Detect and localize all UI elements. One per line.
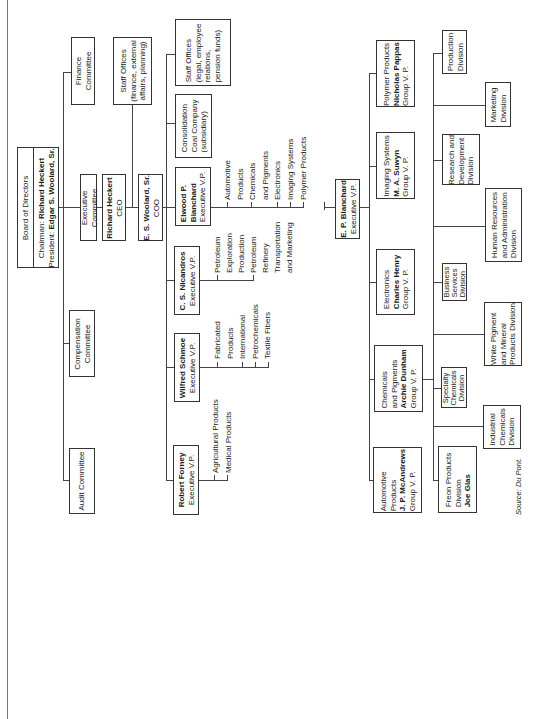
evp-elwood-blanchard-box: Elwood P.BlanchardExecutive V.P. (175, 167, 211, 226)
connector (166, 123, 175, 124)
evp-forney-box: Robert ForneyExecutive V.P. (173, 445, 199, 515)
connector (253, 275, 254, 280)
connector (166, 480, 173, 481)
group-vp-imaging-box: Imaging SystemsM. A. SuwynGroup V. P. (376, 132, 415, 199)
executive-committee-box: ExecutiveCommittee (80, 174, 97, 241)
staff-offices-corporate-box: Staff Offices(finance, externalaffairs, … (113, 37, 152, 105)
connector (200, 367, 269, 368)
board-chairman-row: Chairman: Richard Heckert (36, 148, 46, 267)
staff-offices-connector (132, 105, 133, 207)
connector (63, 72, 71, 73)
ceo-to-coo (126, 207, 138, 208)
connector (166, 207, 175, 208)
board-president: Edgar S. Woolard, Sr. (46, 148, 55, 229)
coo-name: E. S. Woolard, Sr. (141, 174, 150, 240)
board-title: Board of Directors (21, 175, 31, 239)
connector (200, 280, 254, 281)
board-chairman: Richard Heckert (36, 157, 45, 218)
evp-nicandros-box: C. S. NicandrosExecutive V.P. (174, 246, 200, 315)
finance-committee-box: FinanceCommittee (71, 37, 95, 105)
connector (166, 280, 174, 281)
committee-spine (63, 72, 64, 481)
group-vp-automotive-box: AutomotiveProductsJ. P. McAndrewsGroup V… (373, 447, 422, 513)
division-freon-box: Freon ProductsDivisionJoe Glas (438, 446, 477, 513)
compensation-committee-box: CompensationCommittee (69, 310, 95, 377)
connector (433, 53, 442, 54)
board-of-directors-box: Board of Directors Chairman: Richard Hec… (17, 147, 59, 268)
connector (290, 202, 291, 207)
connector (211, 207, 304, 208)
division-business-services-box: BusinessServicesDivision (442, 263, 467, 301)
connector (277, 202, 278, 207)
connector (324, 207, 335, 208)
board-president-row: President: Edgar S. Woolard, Sr. (46, 148, 56, 267)
coo-box: E. S. Woolard, Sr.COO (138, 174, 163, 241)
evp-schmoe-box: Wilfred SchmoeExecutive V.P. (174, 333, 200, 402)
division-hr-admin-box: Human Resourcesand AdministrationDivisio… (485, 188, 522, 262)
division-marketing-box: MarketingDivision (485, 82, 511, 127)
ceo-box: Richard HeckertCEO (102, 174, 126, 241)
connector (369, 282, 376, 283)
audit-committee-box: Audit Committee (69, 448, 95, 514)
evp-spine (166, 54, 167, 481)
connector (433, 160, 442, 161)
group-vp-spine (369, 73, 370, 481)
group-vp-electronics-box: ElectronicsCharles HenryGroup V. P. (376, 249, 415, 315)
connector (214, 475, 215, 480)
consolidation-coal-box: ConsolidationCoal Company(subsidiary) (175, 94, 212, 158)
connector (369, 166, 376, 167)
page-edge-rule (7, 0, 8, 719)
division-white-pigment-box: White Pigmentand MineralProducts Divisio… (484, 302, 522, 366)
connector (433, 226, 485, 227)
continuation-bracket (324, 202, 325, 210)
connector (433, 105, 485, 106)
connector (433, 388, 441, 389)
connector (433, 426, 483, 427)
connector (217, 362, 218, 367)
connector (255, 362, 256, 367)
group-vp-polymer-box: Polymer ProductsNicholas PappasGroup V. … (376, 40, 415, 107)
connector (433, 282, 442, 283)
staff-offices-legal-box: Staff Offices(legal, employeerelations,p… (175, 19, 231, 86)
group-vp-chemicals-box: Chemicalsand PigmentsArchie DunhamGroup … (374, 345, 423, 412)
connector (227, 202, 228, 207)
connector (242, 362, 243, 367)
connector (166, 367, 174, 368)
connector (199, 480, 228, 481)
ep-blanchard-box: E. P. BlanchardExecutive V.P. (335, 179, 360, 239)
connector (303, 202, 304, 207)
connector (217, 275, 218, 280)
connector (63, 207, 80, 208)
connector (369, 73, 376, 74)
connector (251, 202, 252, 207)
ceo-name: Richard Heckert (105, 177, 114, 238)
connector (433, 334, 484, 335)
division-specialty-chemicals-box: SpecialtyChemicalsDivision (441, 367, 467, 408)
connector (227, 475, 228, 480)
divisions-spine (433, 53, 434, 480)
division-production-box: ProductionDivision (442, 30, 467, 74)
division-industrial-chemicals-box: IndustrialChemicalsDivision (483, 405, 521, 449)
connector (423, 379, 433, 380)
division-rnd-box: Research andDevelopmentDivision (442, 134, 480, 185)
connector (166, 54, 175, 55)
connector (268, 362, 269, 367)
connector (360, 207, 369, 208)
